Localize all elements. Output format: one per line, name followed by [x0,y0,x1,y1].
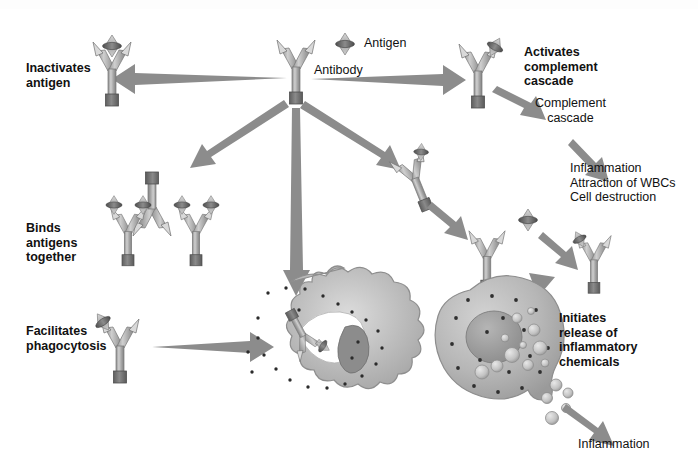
label-facilitates-phagocytosis: Facilitates phagocytosis [26,324,107,353]
arrow-to-binds [190,100,289,168]
label-binds-antigens-together: Binds antigens together [26,221,77,265]
legend-antibody-label: Antibody [314,63,363,78]
antibody-branch-upper [386,138,451,216]
label-activates-complement-cascade: Activates complement cascade [524,45,598,89]
label-inflammation: Inflammation [578,437,650,452]
label-initiates-release: Initiates release of inflammatory chemic… [559,311,638,369]
arrow-to-phagocyte-cell [152,332,274,362]
arrow-to-inactivates [112,64,287,94]
diagram-canvas: Inactivates antigen Binds antigens toget… [0,0,698,468]
arrow-antigen-to-antibody [538,232,578,270]
arrow-to-mast-branch [300,101,401,170]
central-antibody [277,40,315,104]
label-cascade-effects: Inflammation Attraction of WBCs Cell des… [570,161,676,205]
label-complement-cascade: Complement cascade [535,96,606,125]
legend-antigen-glyph [336,33,355,55]
antigen-antibody-lattice [106,172,219,266]
legend-antigen-label: Antigen [364,36,406,51]
mast-cell [435,276,573,425]
label-inactivates-antigen: Inactivates antigen [26,61,91,90]
arrow-branch-to-mast [427,202,468,240]
free-antigen [519,209,538,231]
complement-antibody [459,34,507,108]
arrow-to-phagocyte [283,108,310,296]
phagocyte [246,266,424,390]
